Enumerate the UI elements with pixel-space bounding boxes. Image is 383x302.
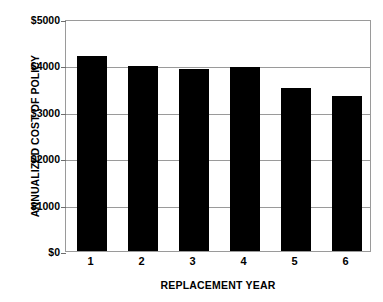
x-tick-label: 2 [138, 255, 144, 267]
x-tick-label: 4 [240, 255, 246, 267]
x-tick-label: 5 [291, 255, 297, 267]
bar [332, 96, 362, 251]
bar-chart: ANNUALIZED COST OF POLICY $0$1000$2000$3… [0, 0, 383, 302]
bar [77, 56, 107, 251]
bar [230, 67, 260, 251]
plot-area [65, 20, 371, 252]
y-tick-label: $0 [48, 246, 60, 258]
x-tick-label: 3 [189, 255, 195, 267]
y-tick-label: $5000 [31, 14, 60, 26]
x-tick-label: 1 [87, 255, 93, 267]
x-axis-tick-labels: 123456 [65, 255, 371, 273]
y-tick-label: $1000 [31, 200, 60, 212]
y-tickmark [61, 253, 66, 254]
x-tick-label: 6 [342, 255, 348, 267]
bar [179, 69, 209, 251]
x-axis-title: REPLACEMENT YEAR [65, 279, 371, 291]
y-tick-label: $2000 [31, 153, 60, 165]
bar [128, 66, 158, 251]
y-tick-label: $3000 [31, 107, 60, 119]
y-axis-tick-labels: $0$1000$2000$3000$4000$5000 [8, 0, 60, 302]
bars-group [66, 21, 370, 251]
y-tick-label: $4000 [31, 60, 60, 72]
bar [281, 88, 311, 251]
